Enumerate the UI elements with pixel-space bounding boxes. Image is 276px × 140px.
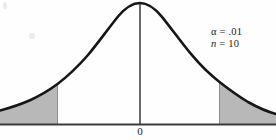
x-axis-tick-zero: 0 <box>133 125 147 137</box>
normal-curve-figure: α = .01 n = 10 0 <box>0 0 276 140</box>
parameter-annotation: α = .01 n = 10 <box>211 26 242 49</box>
n-value: = 10 <box>216 38 239 49</box>
alpha-annotation: α = .01 <box>211 26 242 38</box>
sample-size-annotation: n = 10 <box>211 38 242 50</box>
distribution-plot <box>0 0 276 140</box>
